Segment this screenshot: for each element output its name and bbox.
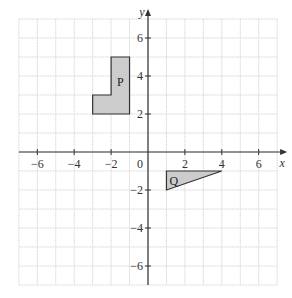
shape-p <box>93 57 130 114</box>
y-axis-arrow-icon <box>145 9 151 16</box>
x-tick-label: −4 <box>68 157 81 171</box>
y-tick-label: −6 <box>130 259 143 273</box>
x-axis-arrow-icon <box>280 149 287 155</box>
x-tick-label: −6 <box>31 157 44 171</box>
x-tick-label: 2 <box>182 157 188 171</box>
y-tick-label: 2 <box>137 107 143 121</box>
y-tick-label: 6 <box>137 31 143 45</box>
axes <box>19 9 287 285</box>
y-axis-name: y <box>138 5 145 19</box>
x-tick-label: 4 <box>219 157 225 171</box>
tick-labels: −6−4−2246642−2−4−60xy <box>31 5 286 273</box>
origin-label: 0 <box>137 157 143 171</box>
y-tick-label: −2 <box>130 183 143 197</box>
coordinate-grid-diagram: PQ −6−4−2246642−2−4−60xy <box>0 0 292 298</box>
shape-label-p: P <box>117 75 124 89</box>
x-tick-label: 6 <box>256 157 262 171</box>
shape-label-q: Q <box>169 174 178 188</box>
x-axis-name: x <box>278 156 285 170</box>
x-tick-label: −2 <box>105 157 118 171</box>
y-tick-label: −4 <box>130 221 143 235</box>
y-tick-label: 4 <box>137 69 143 83</box>
